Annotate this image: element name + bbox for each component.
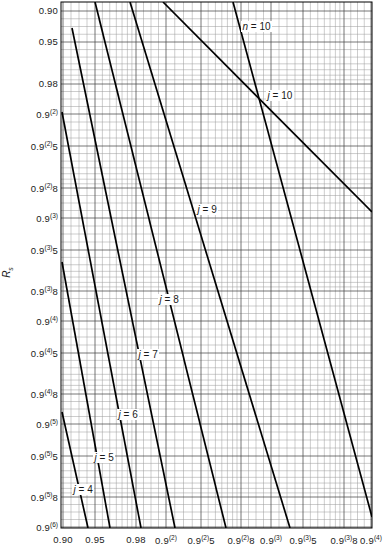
- y-tick-label: 0.9(3)8: [31, 285, 58, 297]
- y-tick-label: 0.9(3)5: [31, 244, 58, 256]
- y-tick-label: 0.9(5)8: [31, 491, 58, 503]
- y-tick-label: 0.9(2)5: [31, 140, 58, 152]
- curve-label-j-4: j = 4: [72, 484, 94, 495]
- y-tick-label: 0.9(2): [36, 108, 58, 120]
- y-tick-label: 0.9(3): [36, 212, 58, 224]
- y-tick-label: 0.9(2)8: [31, 182, 58, 194]
- y-tick-label: 0.98: [39, 78, 58, 89]
- curve-label-j-6: j = 6: [117, 409, 139, 420]
- curve-label-j-5: j = 5: [93, 452, 115, 463]
- curve-label-n-10: n = 10: [241, 21, 272, 32]
- y-axis-title: Rs: [1, 267, 14, 278]
- curve-label-j-7: j = 7: [137, 349, 159, 360]
- x-tick-label: 0.9(4): [341, 534, 387, 546]
- y-tick-label: 0.9(5): [36, 418, 58, 430]
- y-tick-label: 0.9(4)8: [31, 388, 58, 400]
- y-tick-label: 0.9(5)5: [31, 450, 58, 462]
- curve-label-j-10: j = 10: [266, 90, 294, 101]
- y-tick-label: 0.9(6): [36, 521, 58, 533]
- y-tick-label: 0.9(4): [36, 315, 58, 327]
- curve-label-j-8: j = 8: [158, 294, 180, 305]
- y-tick-label: 0.90: [39, 5, 58, 16]
- y-tick-label: 0.9(4)5: [31, 347, 58, 359]
- curve-label-j-9: j = 9: [196, 204, 218, 215]
- y-tick-label: 0.95: [39, 36, 58, 47]
